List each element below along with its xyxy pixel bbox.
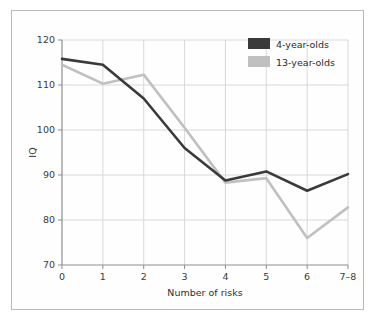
x-tick-label: 5 — [263, 271, 269, 282]
legend-swatch — [248, 56, 270, 67]
x-tick-group: 01234567–8 — [59, 265, 356, 282]
x-tick-label: 3 — [182, 271, 188, 282]
x-tick-label: 7–8 — [340, 271, 357, 282]
y-tick-label: 90 — [43, 169, 55, 180]
y-tick-label: 100 — [37, 124, 55, 135]
y-tick-label: 80 — [43, 214, 55, 225]
axis-lines-group — [62, 40, 348, 265]
x-tick-label: 2 — [141, 271, 147, 282]
legend-label: 13-year-olds — [276, 57, 335, 68]
x-tick-label: 0 — [59, 271, 65, 282]
x-tick-label: 4 — [222, 271, 228, 282]
gridlines-group — [62, 40, 348, 265]
y-tick-label: 70 — [43, 259, 55, 270]
y-tick-label: 120 — [37, 34, 55, 45]
x-tick-label: 6 — [304, 271, 310, 282]
series-line-13-year-olds — [62, 65, 348, 238]
x-tick-label: 1 — [100, 271, 106, 282]
legend-label: 4-year-olds — [276, 39, 329, 50]
data-series-group — [62, 59, 348, 238]
y-axis-title: IQ — [27, 147, 38, 157]
chart-legend: 4-year-olds13-year-olds — [248, 38, 335, 68]
legend-swatch — [248, 38, 270, 49]
line-chart: 708090100110120 01234567–8 4-year-olds13… — [0, 0, 378, 324]
series-line-4-year-olds — [62, 59, 348, 191]
figure-container: 708090100110120 01234567–8 4-year-olds13… — [0, 0, 378, 324]
x-axis-title: Number of risks — [167, 287, 242, 298]
y-tick-group: 708090100110120 — [37, 34, 62, 270]
y-tick-label: 110 — [37, 79, 55, 90]
